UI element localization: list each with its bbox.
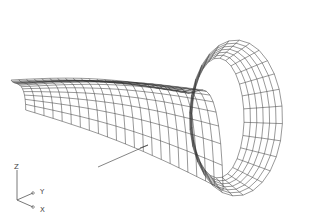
axis-label-x: X	[40, 206, 45, 214]
ucs-icon: Z Y X	[8, 164, 68, 224]
cad-viewport: Z Y X	[0, 0, 314, 224]
axis-label-y: Y	[39, 188, 45, 196]
center-axis-line	[98, 145, 148, 167]
axis-label-z: Z	[14, 164, 19, 171]
